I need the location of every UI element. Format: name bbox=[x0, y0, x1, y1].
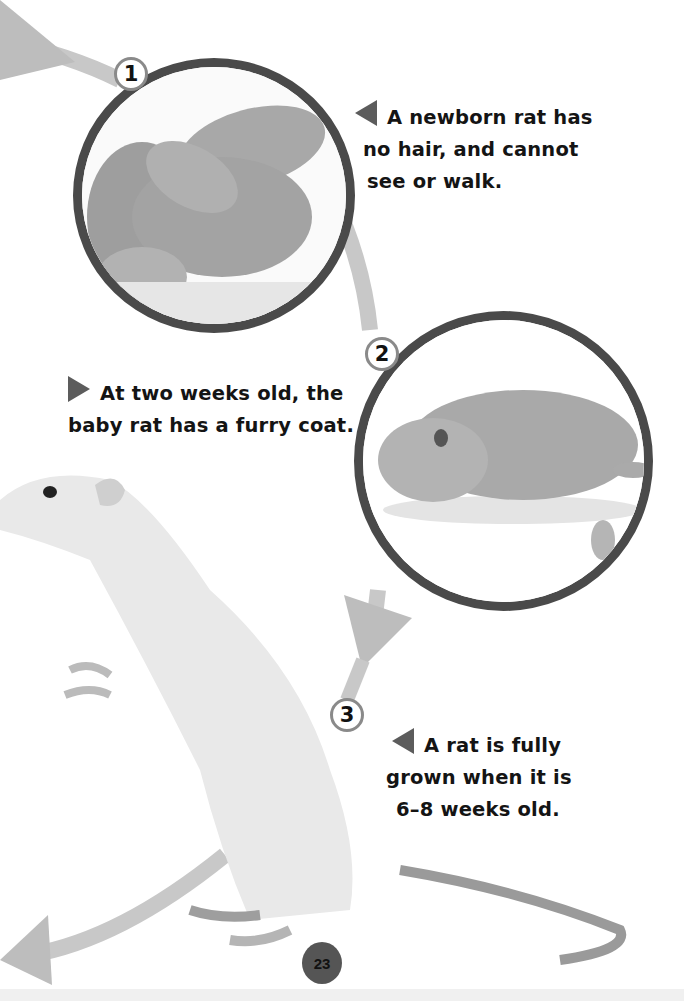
stage-1-photo-circle bbox=[73, 58, 355, 333]
stage-2-caption: At two weeks old, the baby rat has a fur… bbox=[68, 376, 354, 442]
arrow-head-top-icon bbox=[0, 0, 75, 80]
stage-1-badge: 1 bbox=[114, 57, 148, 91]
pointer-left-icon bbox=[392, 728, 414, 754]
page-bottom-edge bbox=[0, 989, 684, 1001]
stage-3-caption: A rat is fully grown when it is 6–8 week… bbox=[392, 728, 572, 826]
newborn-rats-photo bbox=[82, 67, 346, 324]
stage-1-caption: A newborn rat has no hair, and cannot se… bbox=[355, 100, 593, 198]
page-number: 23 bbox=[302, 942, 342, 984]
pointer-right-icon bbox=[68, 376, 90, 402]
pointer-left-icon bbox=[355, 100, 377, 126]
stage-2-badge: 2 bbox=[365, 337, 399, 371]
stage-3-badge: 3 bbox=[330, 698, 364, 732]
book-page: 1 A newborn rat has no hair, and cannot … bbox=[0, 0, 684, 1001]
